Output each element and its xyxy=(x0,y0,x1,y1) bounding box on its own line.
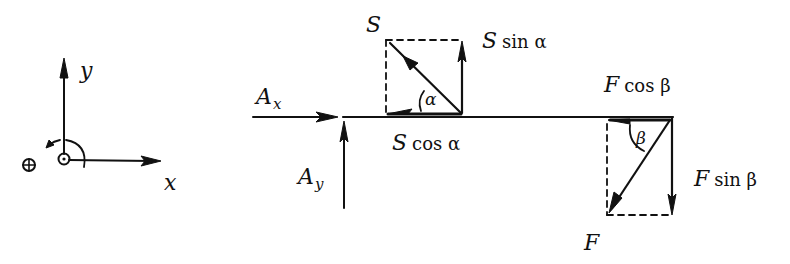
label-beta: β xyxy=(636,130,646,147)
free-body-diagram: y x Ax Ay S Ssin α Scos α α Fcos β Fsin … xyxy=(0,0,790,264)
x-axis-label: x xyxy=(164,172,176,194)
label-f: F xyxy=(584,232,599,254)
s-cos-arrowhead-icon xyxy=(387,109,412,114)
reaction-ay-arrow xyxy=(340,121,348,208)
label-s-sin-alpha: Ssin α xyxy=(482,30,547,52)
origin-dot-icon xyxy=(62,157,65,160)
y-axis-label: y xyxy=(80,60,92,82)
label-s: S xyxy=(366,14,381,36)
label-alpha: α xyxy=(425,91,436,108)
label-ay: Ay xyxy=(298,166,323,188)
rotation-arrowhead-icon xyxy=(46,140,54,148)
label-ax: Ax xyxy=(256,86,281,108)
label-s-cos-alpha: Scos α xyxy=(392,132,460,154)
alpha-angle-arc xyxy=(420,91,424,111)
label-f-sin-beta: Fsin β xyxy=(694,168,757,190)
y-axis-arrowhead-icon xyxy=(60,58,68,78)
reaction-ax-arrow xyxy=(253,112,338,122)
label-f-cos-beta: Fcos β xyxy=(604,74,671,96)
x-axis xyxy=(69,160,152,161)
